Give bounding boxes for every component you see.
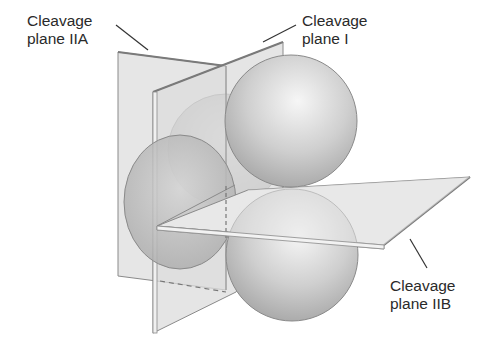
label-iia-line2: plane IIA [27, 30, 93, 48]
label-i-line2: plane I [302, 30, 368, 48]
label-cleavage-plane-i: Cleavage plane I [302, 12, 368, 48]
label-cleavage-plane-iia: Cleavage plane IIA [27, 12, 93, 48]
label-cleavage-plane-iib: Cleavage plane IIB [390, 277, 456, 313]
label-iia-line1: Cleavage [27, 12, 93, 30]
cell-upper-right [225, 55, 357, 187]
label-iib-line2: plane IIB [390, 295, 456, 313]
label-iib-line1: Cleavage [390, 277, 456, 295]
label-i-line1: Cleavage [302, 12, 368, 30]
